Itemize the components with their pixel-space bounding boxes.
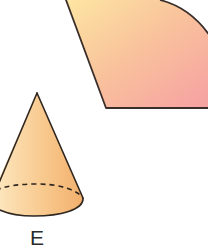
cone-fill bbox=[0, 93, 83, 216]
cone-label: E bbox=[24, 226, 50, 250]
sector-shape bbox=[66, 0, 208, 108]
cone-e bbox=[0, 93, 83, 216]
geometry-figure bbox=[0, 0, 208, 252]
sector-fill bbox=[66, 0, 208, 108]
